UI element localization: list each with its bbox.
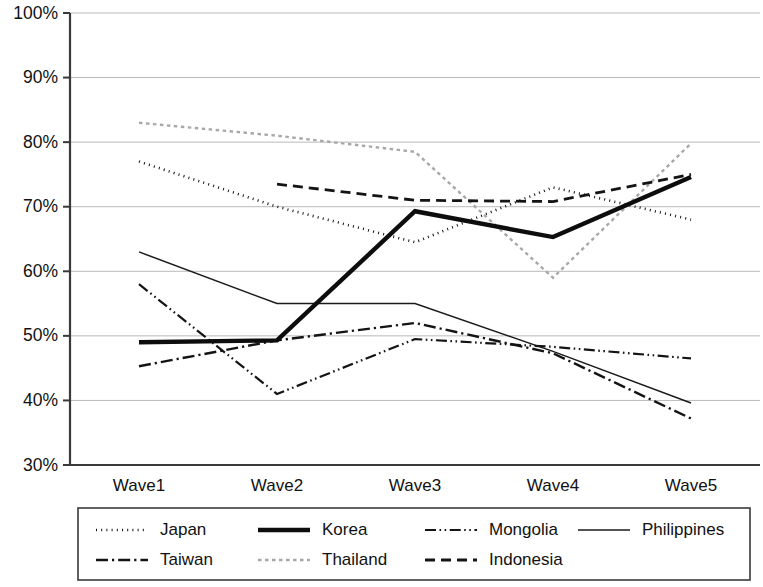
legend-item-thailand[interactable]: Thailand <box>258 550 387 569</box>
series-line-korea <box>139 177 691 342</box>
legend-item-korea[interactable]: Korea <box>258 520 368 539</box>
y-axis-tick-label: 70% <box>23 196 58 216</box>
y-axis-tick-label: 90% <box>23 67 58 87</box>
legend-item-japan[interactable]: Japan <box>96 520 206 539</box>
series-line-indonesia <box>277 174 691 201</box>
x-axis-tick-label: Wave3 <box>389 476 441 495</box>
y-axis-tick-label: 40% <box>23 390 58 410</box>
legend-label: Indonesia <box>489 550 563 569</box>
legend-label: Mongolia <box>489 520 559 539</box>
legend-item-mongolia[interactable]: Mongolia <box>425 520 559 539</box>
legend: JapanKoreaMongoliaPhilippinesTaiwanThail… <box>78 508 750 580</box>
legend-item-philippines[interactable]: Philippines <box>578 520 724 539</box>
legend-item-indonesia[interactable]: Indonesia <box>425 550 563 569</box>
chart-canvas: 30%40%50%60%70%80%90%100% Wave1Wave2Wave… <box>0 0 763 587</box>
y-axis-tick-label: 30% <box>23 455 58 475</box>
legend-label: Philippines <box>642 520 724 539</box>
legend-label: Taiwan <box>160 550 213 569</box>
x-axis-tick-label: Wave5 <box>665 476 717 495</box>
y-axis-tick-labels: 30%40%50%60%70%80%90%100% <box>13 3 70 475</box>
legend-label: Korea <box>322 520 368 539</box>
axis-lines <box>70 13 760 465</box>
legend-label: Japan <box>160 520 206 539</box>
series-line-japan <box>139 162 691 243</box>
axes <box>70 13 760 465</box>
y-axis-tick-label: 80% <box>23 132 58 152</box>
legend-label: Thailand <box>322 550 387 569</box>
y-axis-tick-label: 60% <box>23 261 58 281</box>
series-line-taiwan <box>139 323 691 419</box>
x-axis-tick-labels: Wave1Wave2Wave3Wave4Wave5 <box>113 476 717 495</box>
x-axis-tick-label: Wave2 <box>251 476 303 495</box>
line-chart: 30%40%50%60%70%80%90%100% Wave1Wave2Wave… <box>0 0 763 587</box>
y-axis-tick-label: 50% <box>23 325 58 345</box>
legend-item-taiwan[interactable]: Taiwan <box>96 550 213 569</box>
series-line-thailand <box>139 123 691 278</box>
data-series-group <box>139 123 691 419</box>
x-axis-tick-label: Wave1 <box>113 476 165 495</box>
x-axis-tick-label: Wave4 <box>527 476 579 495</box>
y-axis-tick-label: 100% <box>13 3 58 23</box>
